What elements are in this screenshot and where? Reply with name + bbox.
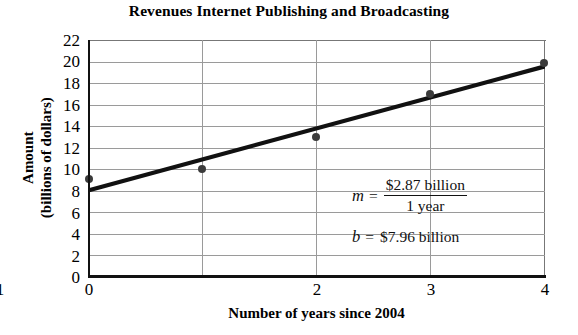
data-point	[198, 165, 206, 173]
x-tick-label: 3	[411, 281, 451, 298]
slope-equation: m = $2.87 billion 1 year	[352, 176, 467, 215]
x-tick-label: 0	[69, 281, 109, 298]
slope-denominator: 1 year	[384, 196, 467, 215]
chart-annotation: m = $2.87 billion 1 year b = $7.96 billi…	[352, 176, 467, 247]
y-axis-line	[88, 40, 90, 277]
x-tick-label: 4	[525, 281, 565, 298]
intercept-value: $7.96 billion	[380, 228, 459, 246]
chart-figure: Revenues Internet Publishing and Broadca…	[0, 0, 578, 335]
trend-line	[88, 40, 545, 277]
intercept-equation: b = $7.96 billion	[352, 227, 467, 247]
x-axis-title: Number of years since 2004	[88, 305, 545, 322]
y-axis-title-line1: Amount	[20, 131, 36, 184]
x-tick-label: 2	[297, 281, 337, 298]
y-axis-title-line2: (billions of dollars)	[38, 48, 56, 268]
slope-numerator: $2.87 billion	[384, 176, 467, 196]
x-axis-line	[88, 275, 546, 278]
slope-equals-sign: =	[369, 187, 384, 205]
intercept-variable: b	[352, 227, 365, 247]
plot-area	[88, 40, 545, 277]
slope-variable: m	[352, 186, 369, 206]
x-tick-label: 1	[0, 281, 20, 298]
y-axis-title: Amount (billions of dollars)	[20, 48, 55, 268]
data-point	[540, 59, 548, 67]
slope-fraction: $2.87 billion 1 year	[384, 176, 467, 215]
intercept-equals-sign: =	[365, 228, 380, 246]
line-of-best-fit	[89, 67, 544, 191]
